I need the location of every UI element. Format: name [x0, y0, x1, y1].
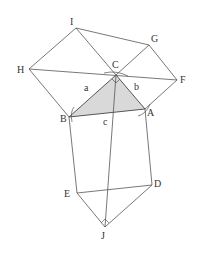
- segment-bh: [29, 69, 69, 117]
- segment-dj: [105, 185, 152, 227]
- label-b: B: [60, 113, 67, 124]
- label-i: I: [70, 16, 73, 27]
- segment-ig: [76, 28, 149, 45]
- segment-be: [69, 117, 77, 193]
- label-a: A: [147, 107, 155, 118]
- segment-ej: [77, 193, 105, 227]
- geometry-diagram: I G H C F B A E D J a b c: [0, 0, 199, 257]
- label-side-c: c: [103, 116, 108, 127]
- diagram-canvas: I G H C F B A E D J a b c: [0, 0, 199, 257]
- segment-gc: [116, 45, 149, 75]
- segment-ic: [76, 28, 116, 75]
- segment-ad: [145, 109, 152, 185]
- segment-fg: [149, 45, 177, 80]
- label-side-a: a: [84, 82, 89, 93]
- segment-ed: [77, 185, 152, 193]
- label-f: F: [180, 74, 186, 85]
- label-c: C: [112, 59, 119, 70]
- segment-hi: [29, 28, 76, 69]
- label-h: H: [17, 64, 24, 75]
- label-d: D: [154, 178, 161, 189]
- label-side-b: b: [134, 81, 139, 92]
- label-g: G: [151, 33, 158, 44]
- label-e: E: [64, 188, 70, 199]
- segment-hf: [29, 69, 177, 80]
- label-j: J: [101, 230, 105, 241]
